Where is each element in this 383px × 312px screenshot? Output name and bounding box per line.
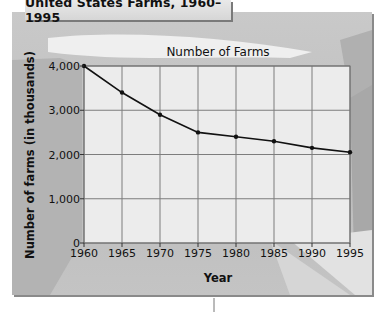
x-tick-label: 1965 xyxy=(108,247,136,260)
data-point xyxy=(234,135,238,139)
x-tick-label: 1980 xyxy=(222,247,250,260)
y-axis-label: Number of farms (in thousands) xyxy=(23,51,37,259)
data-point xyxy=(196,130,200,134)
data-point xyxy=(158,112,162,116)
x-axis-label: Year xyxy=(203,271,233,285)
y-tick-label: 4,000 xyxy=(49,60,81,73)
x-tick-label: 1990 xyxy=(298,247,326,260)
chart-heading: United States Farms, 1960–1995 xyxy=(25,0,231,20)
chart-heading-text: United States Farms, 1960–1995 xyxy=(25,0,231,25)
data-point xyxy=(310,146,314,150)
y-tick-label: 1,000 xyxy=(49,193,81,206)
x-tick-label: 1995 xyxy=(336,247,364,260)
x-tick-label: 1985 xyxy=(260,247,288,260)
data-point xyxy=(348,150,352,154)
x-tick-label: 1970 xyxy=(146,247,174,260)
chart-title: Number of Farms xyxy=(166,45,269,59)
y-tick-label: 2,000 xyxy=(49,149,81,162)
x-tick-label: 1975 xyxy=(184,247,212,260)
data-point xyxy=(120,90,124,94)
chart-svg: 01,0002,0003,0004,000 196019651970197519… xyxy=(0,0,383,312)
x-tick-label: 1960 xyxy=(70,247,98,260)
data-point xyxy=(272,139,276,143)
y-tick-label: 3,000 xyxy=(49,104,81,117)
